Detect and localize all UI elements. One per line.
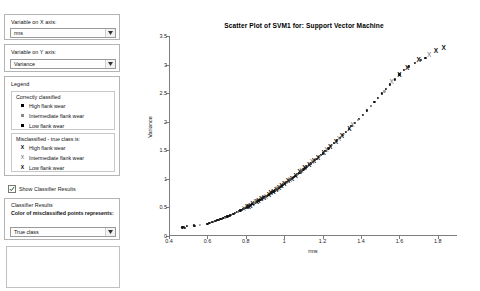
- legend-title: Legend: [11, 81, 29, 87]
- square-gray-marker-icon: [16, 111, 29, 120]
- x-axis-tick-label: 0.6: [204, 238, 212, 244]
- data-point: [186, 225, 188, 227]
- data-point: X: [434, 48, 438, 55]
- data-point: X: [350, 122, 354, 129]
- plot-box: 00.511.522.533.5 0.40.60.811.21.41.61.8 …: [169, 36, 457, 236]
- legend-item-correct-high: High flank wear: [16, 101, 112, 110]
- classifier-results-group: Classifier Results Color of misclassifie…: [4, 198, 120, 240]
- y-axis-tick-label: 1.5: [160, 147, 168, 153]
- x-axis-tick-label: 0.4: [165, 238, 173, 244]
- data-point: X: [288, 176, 292, 183]
- legend-item-wrong-high: X High flank wear: [16, 143, 112, 152]
- data-point: [377, 97, 379, 99]
- x-axis-variable-group: Variable on X axis: rms: [4, 14, 120, 40]
- y-axis-tick-label: 3.5: [160, 33, 168, 39]
- x-axis-variable-select[interactable]: rms: [10, 28, 116, 38]
- x-axis-tick-label: 0.8: [242, 238, 250, 244]
- empty-bottom-panel: [6, 246, 120, 288]
- legend-item-label: Intermediate flank wear: [29, 113, 112, 119]
- x-axis-variable-value: rms: [11, 29, 105, 37]
- data-point: [370, 105, 372, 107]
- x-axis-tick-label: 1.2: [319, 238, 327, 244]
- x-axis-tick-label: 1.4: [357, 238, 365, 244]
- data-point: [381, 92, 383, 94]
- y-axis-variable-label: Variable on Y axis:: [11, 49, 56, 55]
- data-point: X: [316, 154, 320, 161]
- data-point: X: [253, 199, 257, 206]
- x-axis-tick-label: 1: [283, 238, 286, 244]
- data-point: [362, 113, 364, 115]
- y-axis-tick-label: 3: [164, 62, 167, 68]
- legend-correct-heading: Correctly classified: [16, 94, 60, 100]
- data-point: [224, 217, 226, 219]
- y-axis-tick-label: 2: [164, 119, 167, 125]
- y-axis-variable-group: Variable on Y axis: Variance: [4, 44, 120, 72]
- show-classifier-results-label: Show Classifier Results: [19, 186, 76, 192]
- legend-correctly-classified: Correctly classified High flank wear Int…: [11, 91, 115, 130]
- data-point: [356, 119, 358, 121]
- x-marker-icon: X: [16, 163, 29, 172]
- data-point: X: [242, 205, 246, 212]
- square-marker-icon: [16, 121, 29, 130]
- x-axis-title: rms: [169, 248, 457, 254]
- data-point: X: [324, 147, 328, 154]
- classifier-results-title: Classifier Results: [11, 202, 53, 208]
- data-point: X: [416, 57, 420, 64]
- misclassified-color-value: True class: [11, 228, 105, 236]
- legend-item-correct-low: Low flank wear: [16, 121, 112, 130]
- legend-item-correct-intermediate: Intermediate flank wear: [16, 111, 112, 120]
- chevron-down-icon[interactable]: [105, 29, 115, 37]
- data-point: X: [441, 45, 445, 52]
- x-axis-variable-label: Variable on X axis:: [11, 19, 57, 25]
- data-point: [383, 90, 385, 92]
- show-classifier-results-row[interactable]: Show Classifier Results: [8, 184, 120, 194]
- x-axis-tick-label: 1.6: [396, 238, 404, 244]
- square-marker-icon: [16, 101, 29, 110]
- data-point: [237, 211, 239, 213]
- chevron-down-icon[interactable]: [105, 228, 115, 236]
- data-point: [373, 101, 375, 103]
- legend-item-wrong-low: X Low flank wear: [16, 163, 112, 172]
- legend-group: Legend Correctly classified High flank w…: [4, 76, 120, 176]
- data-point: X: [427, 51, 431, 58]
- legend-item-label: High flank wear: [29, 103, 112, 109]
- data-point: X: [310, 159, 314, 166]
- y-axis-tick-label: 1: [164, 176, 167, 182]
- x-marker-thin-icon: X: [16, 153, 29, 162]
- legend-misclassified: Misclassified - true class is: X High fl…: [11, 133, 115, 172]
- legend-misclassified-heading: Misclassified - true class is:: [16, 136, 80, 142]
- data-point: [194, 225, 196, 227]
- data-point: [366, 109, 368, 111]
- data-point: [199, 224, 201, 226]
- legend-item-wrong-intermediate: X Intermediate flank wear: [16, 153, 112, 162]
- data-point: X: [337, 135, 341, 142]
- show-classifier-results-checkbox[interactable]: [8, 185, 16, 193]
- data-point: X: [405, 64, 409, 71]
- data-point: X: [397, 71, 401, 78]
- classifier-results-description: Color of misclassified points represents…: [11, 210, 115, 217]
- chevron-down-icon[interactable]: [105, 60, 115, 68]
- y-axis-title: Variance: [147, 116, 153, 138]
- legend-item-label: High flank wear: [29, 145, 112, 151]
- x-axis-tick-label: 1.8: [434, 238, 442, 244]
- data-point: X: [390, 79, 394, 86]
- data-point: X: [275, 186, 279, 193]
- data-point: X: [299, 168, 303, 175]
- legend-item-label: Low flank wear: [29, 123, 112, 129]
- legend-item-label: Intermediate flank wear: [29, 155, 112, 161]
- chart-title: Scatter Plot of SVM1 for: Support Vector…: [132, 22, 476, 29]
- y-axis-tick-label: 0.5: [160, 204, 168, 210]
- y-axis-variable-select[interactable]: Variance: [10, 59, 116, 69]
- x-marker-icon: X: [16, 143, 29, 152]
- control-panel: Variable on X axis: rms Variable on Y ax…: [4, 14, 120, 276]
- legend-item-label: Low flank wear: [29, 165, 112, 171]
- scatter-plot-area: Scatter Plot of SVM1 for: Support Vector…: [132, 18, 476, 280]
- misclassified-color-select[interactable]: True class: [10, 227, 116, 237]
- data-point: X: [328, 144, 332, 151]
- y-axis-tick-label: 2.5: [160, 90, 168, 96]
- data-point: [385, 88, 387, 90]
- data-point: X: [264, 193, 268, 200]
- data-points-layer: XXXXXXXXXXXXXXXXXXXXXXXXXXXXXXXXXXXXXXXX…: [169, 36, 457, 236]
- y-axis-variable-value: Variance: [11, 60, 105, 68]
